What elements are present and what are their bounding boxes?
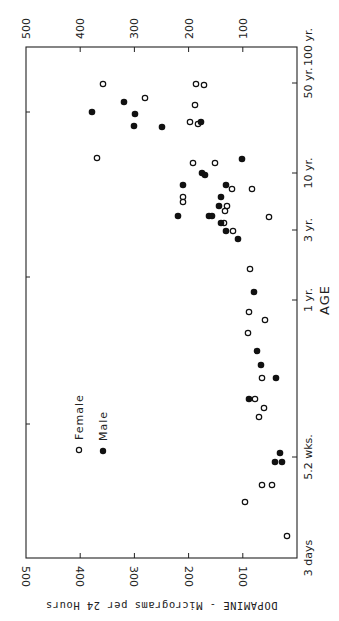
bottom-tick-label: 500 <box>19 566 32 587</box>
legend: Female Male <box>73 394 110 454</box>
legend-female-label: Female <box>73 394 86 440</box>
top-tick-label: 500 <box>20 18 33 39</box>
bottom-tick-label: 300 <box>127 566 140 587</box>
female-data-point <box>100 81 105 86</box>
male-data-point <box>198 119 205 126</box>
female-data-point <box>193 81 198 86</box>
female-data-point <box>94 155 99 160</box>
male-data-point <box>254 348 261 355</box>
age-tick-label: 100 yr. <box>302 28 315 66</box>
female-data-point <box>230 228 235 233</box>
female-data-point <box>256 414 261 419</box>
age-tick-label: 5.2 wks. <box>302 434 315 480</box>
plot-frame <box>26 47 297 558</box>
female-data-point <box>245 330 250 335</box>
female-series <box>94 81 289 538</box>
female-legend-marker-icon <box>76 447 81 452</box>
male-series <box>89 99 286 466</box>
top-tick-label: 300 <box>128 18 141 39</box>
male-data-point <box>159 124 166 131</box>
male-data-point <box>180 182 187 189</box>
male-data-point <box>175 213 182 220</box>
female-data-point <box>247 266 252 271</box>
top-tick-label: 400 <box>74 18 87 39</box>
female-data-point <box>259 482 264 487</box>
male-data-point <box>277 450 284 457</box>
male-data-point <box>209 213 216 220</box>
age-tick-label: 50 yr. <box>302 67 315 98</box>
male-data-point <box>202 172 209 179</box>
bottom-tick-label: 100 <box>236 566 249 587</box>
female-data-point <box>259 375 264 380</box>
male-data-point <box>258 362 265 369</box>
female-data-point <box>246 309 251 314</box>
male-data-point <box>273 375 280 382</box>
female-data-point <box>262 317 267 322</box>
legend-male-label: Male <box>97 411 110 441</box>
male-data-point <box>132 111 139 118</box>
age-tick-label: 3 days <box>302 540 315 577</box>
male-data-point <box>121 99 128 106</box>
male-data-point <box>218 220 225 227</box>
male-data-point <box>131 123 138 130</box>
female-data-point <box>201 82 206 87</box>
female-data-point <box>212 160 217 165</box>
bottom-tick-label: 400 <box>73 566 86 587</box>
plot-border <box>26 47 297 558</box>
male-data-point <box>239 156 246 163</box>
age-tick-label: 3 yr. <box>302 218 315 242</box>
male-data-point <box>246 396 253 403</box>
female-data-point <box>249 186 254 191</box>
male-data-point <box>216 203 223 210</box>
female-data-point <box>190 160 195 165</box>
age-axis: 3 days5.2 wks.1 yr.3 yr.10 yr.50 yr.100 … <box>26 28 315 576</box>
x-axis-title-age: AGE <box>317 285 332 315</box>
male-data-point <box>235 236 242 243</box>
top-tick-label: 200 <box>183 18 196 39</box>
female-data-point <box>222 208 227 213</box>
male-data-point <box>223 228 230 235</box>
female-data-point <box>229 186 234 191</box>
female-data-point <box>180 199 185 204</box>
female-data-point <box>269 482 274 487</box>
male-data-point <box>218 194 225 201</box>
female-data-point <box>142 95 147 100</box>
top-tick-label: 100 <box>237 18 250 39</box>
female-data-point <box>284 533 289 538</box>
female-data-point <box>187 119 192 124</box>
male-data-point <box>272 459 279 466</box>
male-data-point <box>89 109 96 116</box>
age-tick-label: 1 yr. <box>302 288 315 312</box>
y-axis-title-dopamine: DOPAMINE - Micrograms per 24 Hours <box>46 600 278 612</box>
age-tick-label: 10 yr. <box>302 157 315 188</box>
female-data-point <box>261 405 266 410</box>
female-data-point <box>266 214 271 219</box>
male-data-point <box>251 289 258 296</box>
male-data-point <box>279 459 286 466</box>
male-data-point <box>223 182 230 189</box>
female-data-point <box>242 499 247 504</box>
bottom-tick-label: 200 <box>182 566 195 587</box>
female-data-point <box>252 396 257 401</box>
dopamine-age-scatter-chart: 100200300400500 100200300400500 3 days5.… <box>0 0 339 621</box>
female-data-point <box>192 102 197 107</box>
male-legend-marker-icon <box>100 448 106 454</box>
